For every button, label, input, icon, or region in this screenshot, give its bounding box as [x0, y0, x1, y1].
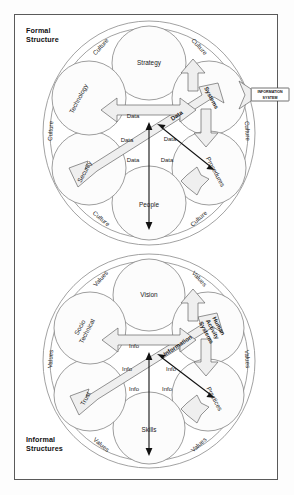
ring-label-values-4: Values: [189, 436, 207, 454]
flow-label-data-6: Data: [161, 157, 174, 163]
flow-label-data-5: Data: [127, 157, 140, 163]
flow-label-data-1: Data: [127, 113, 140, 119]
ring-label-values-1: Values: [92, 269, 110, 287]
ring-label-culture-1: Culture: [91, 36, 110, 56]
figure-canvas: Formal Structure: [0, 0, 294, 495]
flow-label-info-6: Info: [162, 386, 173, 392]
flow-label-data-4: Data: [164, 136, 177, 142]
flow-label-info-4: Info: [166, 366, 177, 372]
ring-label-culture-4: Culture: [189, 209, 209, 228]
panel-formal-structure: Formal Structure: [15, 15, 279, 253]
ring-label-culture-3: Culture: [244, 121, 252, 142]
information-system-label-line2: SYSTEM: [263, 96, 278, 100]
diagram-frame: Formal Structure: [14, 14, 278, 480]
informal-structures-svg: Vision Human Activity Systems Practices …: [15, 253, 279, 481]
petal-label-people: People: [139, 201, 159, 209]
information-system-label-line1: INFORMATION: [257, 90, 282, 94]
ring-label-values-6: Values: [46, 349, 54, 368]
information-system-callout[interactable]: INFORMATION SYSTEM: [239, 81, 289, 109]
panel-informal-structures: Informal Structures: [15, 253, 279, 481]
block-arrow-horizontal-data: [101, 98, 196, 122]
petal-technology[interactable]: [52, 61, 126, 135]
petal-label-strategy: Strategy: [137, 59, 162, 67]
ring-label-culture-6: Culture: [46, 120, 54, 141]
flow-label-info-3: Info: [122, 366, 133, 372]
formal-structure-svg: INFORMATION SYSTEM Strategy Systems Proc…: [15, 15, 279, 253]
ring-label-culture-2: Culture: [190, 37, 209, 57]
petal-label-skills: Skills: [142, 426, 157, 433]
ring-label-values-5: Values: [92, 436, 111, 453]
ring-label-values-2: Values: [191, 269, 209, 287]
flow-label-info-1: Info: [129, 343, 140, 349]
flow-label-data-3: Data: [121, 137, 134, 143]
ring-label-values-3: Values: [244, 349, 252, 368]
flow-label-info-5: Info: [129, 386, 140, 392]
petal-label-vision: Vision: [140, 291, 158, 298]
